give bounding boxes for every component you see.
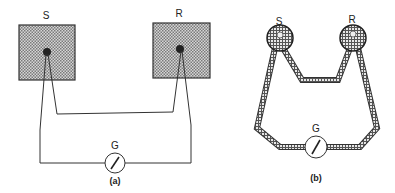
r-label-b: R [348, 14, 355, 25]
r-junction-b [340, 25, 366, 51]
g-label-b: G [312, 123, 320, 134]
caption-b: (b) [310, 173, 322, 183]
figure-b: S R G (b) [257, 14, 377, 183]
caption-a: (a) [110, 176, 121, 186]
r-label: R [175, 8, 182, 19]
s-label-b: S [276, 16, 283, 27]
s-junction-dot [43, 48, 51, 56]
s-label: S [43, 10, 50, 21]
thermocouple-diagram: S R G (a) S R G [0, 0, 395, 193]
r-junction-dot [176, 45, 184, 53]
g-label: G [111, 140, 119, 151]
figure-a: S R G (a) [19, 8, 210, 186]
